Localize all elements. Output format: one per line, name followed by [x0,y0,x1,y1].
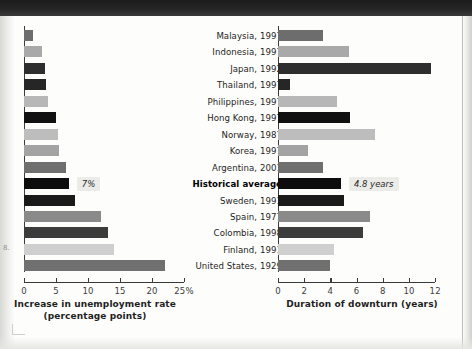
x-axis-title-unemployment: Increase in unemployment rate(percentage… [0,299,190,322]
x-tick-label-duration: 4 [328,286,334,296]
x-tick-unemployment [184,278,185,282]
bar-duration [278,227,363,238]
x-axis-title-duration: Duration of downturn (years) [262,299,462,311]
plot-area-unemployment: 7% [0,22,190,270]
x-tick-duration [383,278,384,282]
chart-unemployment: 7% Increase in unemployment rate(percent… [0,22,190,312]
bar-duration [278,63,431,74]
bar-unemployment [24,145,59,156]
x-tick-unemployment [56,278,57,282]
bar-unemployment [24,260,165,271]
x-tick-unemployment [24,278,25,282]
bar-duration [278,79,290,90]
bar-unemployment [24,162,66,173]
page-bottom-shade [0,337,472,349]
plot-area-duration: 4.8 years [262,22,462,270]
page-right-edge [463,16,472,349]
page-corner-mark [12,324,25,335]
x-tick-label-unemployment: 25% [174,286,194,296]
x-tick-unemployment [88,278,89,282]
bar-duration [278,244,334,255]
x-tick-duration [435,278,436,282]
bar-duration [278,112,350,123]
bar-duration [278,46,349,57]
x-tick-label-unemployment: 0 [21,286,27,296]
bar-unemployment [24,227,108,238]
bar-duration [278,96,337,107]
page-top-band [0,0,472,16]
x-axis-line-duration [278,282,435,283]
bar-unemployment [24,79,46,90]
x-tick-label-unemployment: 10 [82,286,93,296]
bar-duration [278,145,308,156]
bar-duration [278,30,323,41]
bar-unemployment [24,30,33,41]
bar-unemployment [24,112,56,123]
bar-duration [278,178,341,189]
bar-unemployment [24,96,48,107]
bar-unemployment [24,211,101,222]
bar-duration [278,129,375,140]
x-tick-label-duration: 8 [380,286,386,296]
x-tick-label-duration: 12 [430,286,441,296]
x-tick-duration [409,278,410,282]
x-tick-label-unemployment: 20 [146,286,157,296]
page-right-rule [462,16,463,349]
value-annotation-duration: 4.8 years [349,177,399,191]
bar-unemployment [24,129,58,140]
bar-duration [278,211,370,222]
chart-duration: 4.8 years Duration of downturn (years) 0… [262,22,462,312]
bar-duration [278,195,344,206]
x-tick-duration [330,278,331,282]
x-tick-duration [357,278,358,282]
x-tick-unemployment [152,278,153,282]
x-tick-label-duration: 6 [354,286,360,296]
x-axis-title-line2: (percentage points) [0,311,190,323]
x-tick-label-duration: 2 [301,286,307,296]
x-tick-label-duration: 10 [403,286,414,296]
x-axis-title-line1: Duration of downturn (years) [262,299,462,311]
bar-duration [278,260,330,271]
bar-unemployment [24,195,75,206]
bar-unemployment [24,244,114,255]
x-tick-label-unemployment: 15 [114,286,125,296]
bar-unemployment [24,63,45,74]
figure-container: 8. 7% Increase in unemployment rate(perc… [0,0,472,349]
x-tick-label-duration: 0 [275,286,281,296]
bar-duration [278,162,323,173]
x-axis-title-line1: Increase in unemployment rate [0,299,190,311]
bar-unemployment [24,178,69,189]
x-tick-duration [304,278,305,282]
x-tick-label-unemployment: 5 [53,286,59,296]
value-annotation-unemployment: 7% [77,177,101,191]
x-axis-line-unemployment [24,282,184,283]
x-tick-unemployment [120,278,121,282]
x-tick-duration [278,278,279,282]
bar-unemployment [24,46,42,57]
